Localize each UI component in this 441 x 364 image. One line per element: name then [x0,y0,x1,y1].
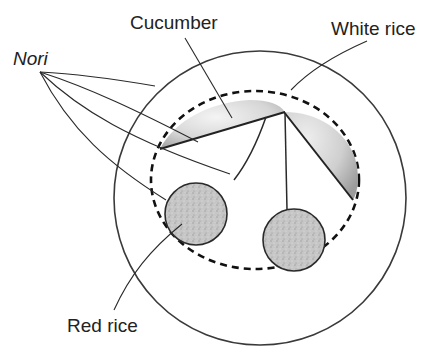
cucumber-leader-line [185,38,232,118]
red-rice-label: Red rice [67,316,138,335]
cucumber-label: Cucumber [130,13,218,32]
red-rice-leader-line [114,224,182,310]
red-rice-circle-left [165,183,227,245]
nori-center-line-down [285,113,287,210]
white-rice-label: White rice [331,19,415,38]
nori-label: Nori [13,49,48,68]
red-rice-circle-right [263,209,325,271]
sushi-roll-diagram [0,0,441,364]
cucumber-slice-left [160,100,285,149]
outer-nori-circle [114,51,406,345]
white-rice-leader-line [291,41,367,90]
